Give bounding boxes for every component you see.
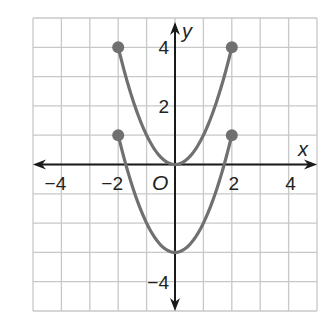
x-tick-label: 4 — [285, 173, 296, 194]
closed-endpoint-dot — [226, 129, 238, 141]
origin-label: O — [152, 171, 168, 194]
x-tick-label: −2 — [101, 173, 123, 194]
y-tick-label: 4 — [158, 37, 169, 58]
x-tick-label: 2 — [229, 173, 240, 194]
x-tick-label: −4 — [45, 173, 67, 194]
axes — [33, 22, 317, 311]
closed-endpoint-dot — [112, 41, 124, 53]
y-tick-label: 2 — [158, 96, 169, 117]
coordinate-plane: x y O −4−22442−4 — [0, 0, 326, 335]
x-axis-label: x — [297, 138, 309, 160]
closed-endpoint-dot — [226, 41, 238, 53]
y-axis-label: y — [180, 20, 193, 42]
y-tick-label: −4 — [147, 272, 169, 293]
closed-endpoint-dot — [112, 129, 124, 141]
